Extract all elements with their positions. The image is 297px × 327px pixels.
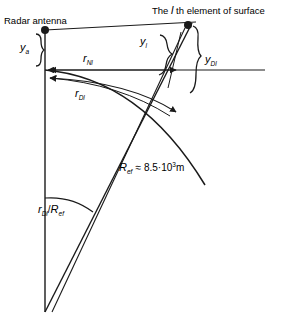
central-angle-numerator-subscript: Dl (42, 210, 48, 217)
range-curved-arrow (50, 78, 176, 112)
antenna-height-label: ya (20, 42, 29, 53)
earth-radius-exponent: 3 (172, 161, 176, 168)
element-height-base: y (140, 35, 146, 47)
line-of-sight (45, 22, 196, 30)
central-angle-denominator-subscript: ef (59, 210, 64, 217)
range-direct-label: rNl (83, 53, 93, 64)
range-direct-subscript: Nl (87, 59, 93, 66)
antenna-height-base: y (20, 41, 26, 53)
range-curved-subscript: Dl (79, 94, 85, 101)
radar-geometry-diagram: Radar antenna The l th element of surfac… (0, 0, 297, 327)
element-height-brace (159, 35, 172, 75)
earth-radius-subscript: ef (127, 168, 132, 175)
earth-radius-power-base: 10 (161, 162, 172, 173)
radar-antenna-label: Radar antenna (4, 16, 67, 26)
element-drop-subscript: Dl (211, 60, 217, 67)
range-curved-arrow-secondary (50, 78, 170, 116)
element-title-prefix: The (152, 5, 171, 16)
element-title-suffix: th element of surface (173, 5, 264, 16)
element-drop-base: y (205, 53, 211, 65)
earth-radius-unit: m (176, 162, 184, 173)
earth-radius-mantissa: 8.5 (144, 162, 158, 173)
central-angle-label: rDl/Ref (38, 204, 64, 215)
element-height-label: yl (140, 36, 147, 47)
earth-radius-base: R (119, 161, 127, 173)
antenna-height-brace (36, 34, 44, 66)
element-height-subscript: l (146, 42, 147, 49)
element-drop-brace (190, 26, 201, 93)
central-angle-denominator-base: R (51, 203, 59, 215)
range-curved-label: rDl (75, 88, 85, 99)
earth-radius-relation: ≈ (135, 162, 141, 173)
antenna-height-subscript: a (26, 48, 30, 55)
element-drop-label: yDl (205, 54, 217, 65)
surface-element-label: The l th element of surface (152, 5, 265, 16)
earth-radius-equation: Ref≈8.5·103m (119, 162, 184, 173)
